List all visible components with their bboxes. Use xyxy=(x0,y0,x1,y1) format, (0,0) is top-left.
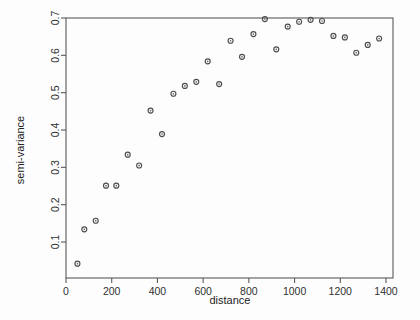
y-tick-label-0.1: 0.1 xyxy=(49,235,61,250)
plot-frame xyxy=(66,18,393,278)
data-point-core xyxy=(333,35,335,37)
data-point-core xyxy=(138,165,140,167)
data-point-core xyxy=(287,26,289,28)
data-point-core xyxy=(310,19,312,21)
data-point-core xyxy=(344,37,346,39)
data-point-core xyxy=(241,56,243,58)
y-tick-label-0.7: 0.7 xyxy=(49,11,61,26)
x-tick-label-1000: 1000 xyxy=(283,285,307,297)
data-point-core xyxy=(207,60,209,62)
x-tick-label-1400: 1400 xyxy=(374,285,398,297)
data-points xyxy=(75,17,382,267)
data-point-core xyxy=(150,110,152,112)
y-tick-label-0.6: 0.6 xyxy=(49,48,61,63)
data-point-core xyxy=(355,52,357,54)
data-point-core xyxy=(298,21,300,23)
data-point-core xyxy=(367,44,369,46)
x-tick-label-200: 200 xyxy=(103,285,121,297)
data-point-core xyxy=(161,133,163,135)
y-axis-title: semi-variance xyxy=(14,116,26,184)
y-tick-label-0.3: 0.3 xyxy=(49,160,61,175)
x-tick-label-0: 0 xyxy=(63,285,69,297)
data-point-core xyxy=(95,220,97,222)
data-point-core xyxy=(105,185,107,187)
data-point-core xyxy=(77,263,79,265)
data-point-core xyxy=(321,20,323,22)
y-tick-label-0.5: 0.5 xyxy=(49,85,61,100)
data-point-core xyxy=(378,38,380,40)
data-point-core xyxy=(218,83,220,85)
x-tick-label-1200: 1200 xyxy=(329,285,353,297)
plot-canvas: 0200400600800100012001400 0.10.20.30.40.… xyxy=(0,0,420,320)
data-point-core xyxy=(173,93,175,95)
y-tick-label-0.4: 0.4 xyxy=(49,123,61,138)
semivariogram-figure: 0200400600800100012001400 0.10.20.30.40.… xyxy=(0,0,420,320)
data-point-core xyxy=(127,154,129,156)
y-tick-label-0.2: 0.2 xyxy=(49,197,61,212)
data-point-core xyxy=(264,18,266,20)
data-point-core xyxy=(184,85,186,87)
x-tick-label-400: 400 xyxy=(149,285,167,297)
data-point-core xyxy=(83,228,85,230)
data-point-core xyxy=(253,33,255,35)
data-point-core xyxy=(195,81,197,83)
data-point-core xyxy=(275,49,277,51)
x-axis-title: distance xyxy=(210,294,251,306)
data-point-core xyxy=(230,40,232,42)
data-point-core xyxy=(115,185,117,187)
y-axis: 0.10.20.30.40.50.60.7 xyxy=(49,11,66,250)
